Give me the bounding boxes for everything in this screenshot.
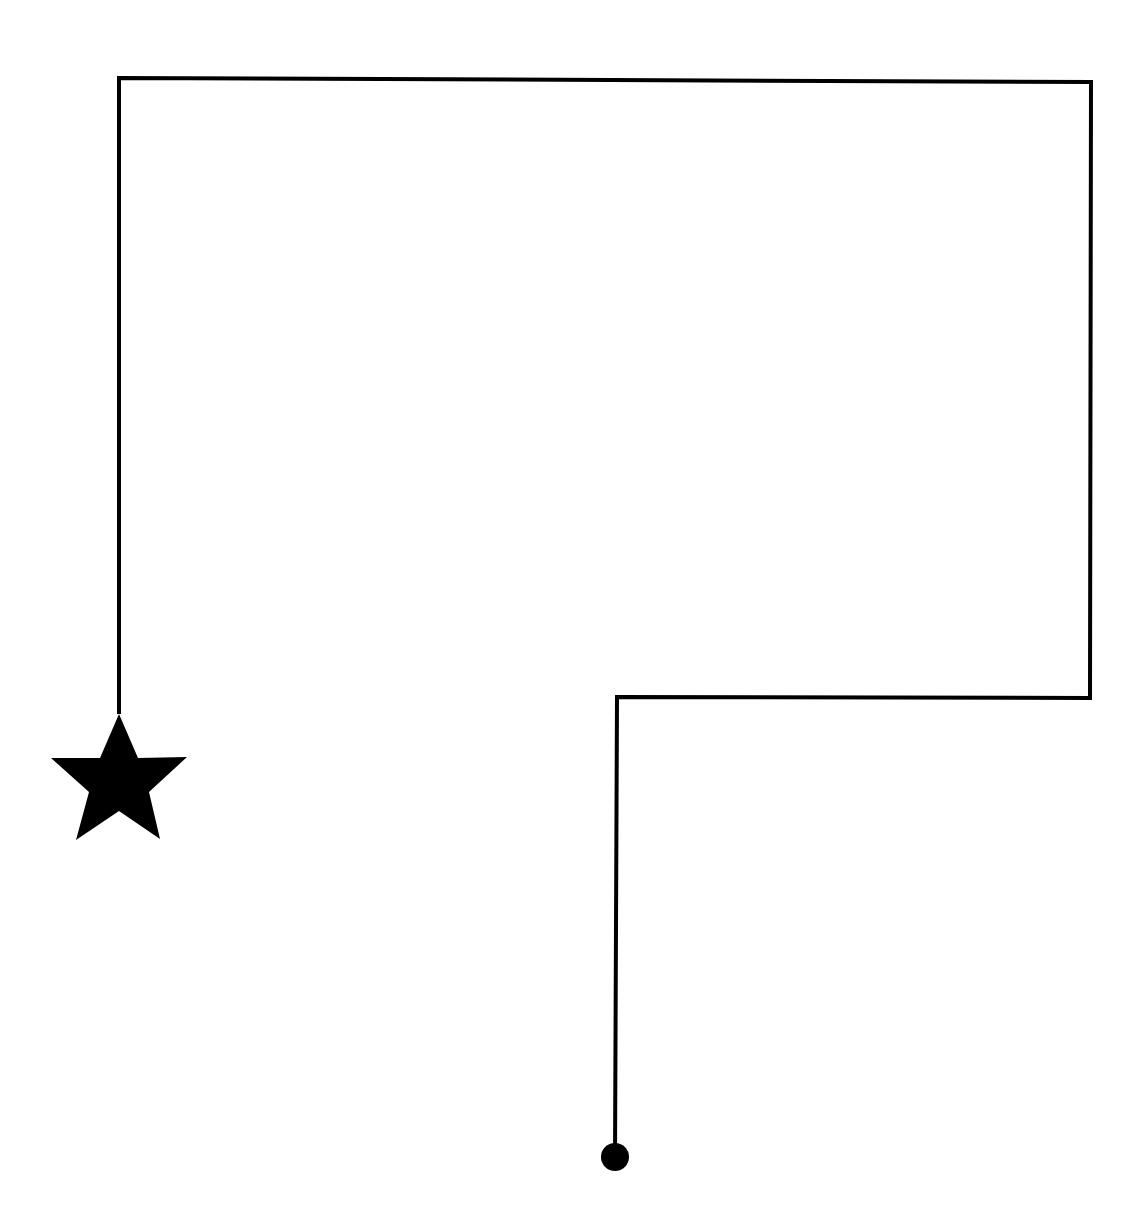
diagram-background (0, 0, 1147, 1216)
start-dot-icon (601, 1143, 629, 1171)
path-diagram (0, 0, 1147, 1216)
